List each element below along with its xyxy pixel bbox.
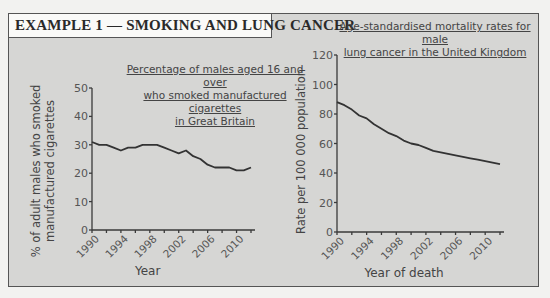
chart2-x-tick-label: 1998 [378, 234, 405, 261]
chart1-y-tick-label: 20 [74, 167, 88, 180]
chart2-y-tick-label: 0 [326, 226, 333, 239]
chart2-y-tick-label: 100 [312, 79, 333, 92]
chart1-y-tick-label: 30 [74, 139, 88, 152]
chart1-x-tick-label: 1990 [74, 232, 101, 259]
chart1-y-axis-label: % of adult males who smoked [29, 85, 43, 258]
chart2-x-axis-label: Year of death [363, 266, 443, 280]
chart2-x-tick-label: 1990 [319, 234, 346, 261]
chart2-x-tick-label: 2010 [467, 234, 494, 261]
chart1-y-axis-label: manufactured cigarettes [43, 100, 57, 242]
chart1-x-tick-label: 2006 [189, 232, 217, 260]
chart2-y-tick-label: 20 [319, 197, 333, 210]
chart1-y-tick-label: 0 [81, 224, 88, 237]
chart1-y-tick-label: 10 [74, 196, 88, 209]
chart1-series-line [92, 142, 251, 170]
chart2-series-line [337, 102, 500, 164]
chart2-y-tick-label: 40 [319, 167, 333, 180]
chart2-y-axis-label: Rate per 100 000 population [294, 69, 308, 234]
chart1-y-tick-label: 40 [74, 110, 88, 123]
charts-canvas: 01020304050199019941998200220062010Year%… [0, 0, 550, 298]
chart2-x-tick-label: 2002 [408, 234, 435, 261]
chart2-y-tick-label: 80 [319, 108, 333, 121]
chart1-x-tick-label: 2010 [218, 232, 245, 259]
chart2-x-tick-label: 1994 [348, 234, 376, 262]
chart1-x-tick-label: 2002 [161, 232, 188, 259]
chart1-x-axis-label: Year [134, 264, 160, 278]
chart1-y-tick-label: 50 [74, 82, 88, 95]
chart2-y-tick-label: 60 [319, 138, 333, 151]
chart1-x-tick-label: 1998 [132, 232, 159, 259]
chart1-x-tick-label: 1994 [103, 232, 131, 260]
chart2-y-tick-label: 120 [312, 49, 333, 62]
chart2-x-tick-label: 2006 [437, 234, 465, 262]
